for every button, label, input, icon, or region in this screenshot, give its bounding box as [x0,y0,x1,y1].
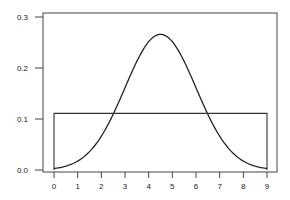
x-tick-label: 9 [265,182,270,191]
plot-frame [43,13,277,172]
x-tick-label: 2 [99,182,104,191]
series-group [54,34,267,170]
x-tick-label: 3 [123,182,128,191]
y-tick-label: 0.3 [17,13,29,22]
x-tick-label: 1 [75,182,80,191]
y-tick-label: 0.1 [17,115,29,124]
x-tick-label: 7 [217,182,222,191]
y-axis: 0.00.10.20.3 [17,13,43,175]
x-tick-label: 8 [241,182,246,191]
x-axis: 0123456789 [52,172,270,191]
x-tick-label: 5 [170,182,175,191]
x-tick-label: 0 [52,182,57,191]
y-tick-label: 0.2 [17,64,29,73]
x-tick-label: 6 [194,182,199,191]
density-chart: 0.00.10.20.3 0123456789 [0,0,290,200]
normal-curve [54,34,267,168]
y-tick-label: 0.0 [17,166,29,175]
x-tick-label: 4 [146,182,151,191]
uniform-rectangle [54,113,267,170]
